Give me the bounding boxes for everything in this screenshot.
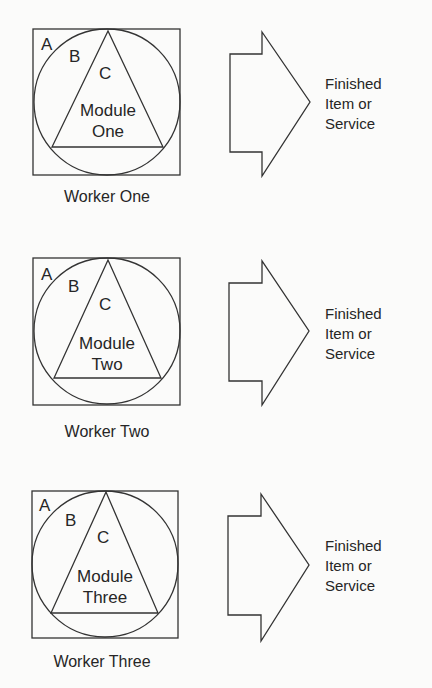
circle-region-b [34, 258, 180, 404]
region-label-c: C [99, 296, 111, 313]
output-label: Finished Item or Service [325, 74, 382, 134]
output-arrow-icon [229, 261, 309, 405]
circle-region-b [32, 491, 178, 637]
output-label: Finished Item or Service [325, 304, 382, 364]
worker-row-1: A B C Module One Worker One Finished Ite… [0, 0, 432, 230]
worker-label: Worker Two [27, 423, 187, 441]
region-label-a: A [41, 266, 52, 283]
region-label-c: C [97, 529, 109, 546]
output-arrow-icon [230, 32, 310, 176]
module-label: Module One [77, 100, 139, 142]
region-label-b: B [65, 512, 76, 529]
region-label-b: B [68, 278, 79, 295]
module-label: Module Three [73, 566, 137, 608]
worker-row-2: A B C Module Two Worker Two Finished Ite… [0, 229, 432, 459]
worker-label: Worker One [27, 188, 187, 206]
region-label-a: A [39, 497, 50, 514]
output-arrow-icon [228, 494, 309, 641]
worker-label: Worker Three [22, 653, 182, 671]
module-label: Module Two [76, 333, 138, 375]
worker-row-3: A B C Module Three Worker Three Finished… [0, 460, 432, 688]
region-label-b: B [69, 48, 80, 65]
region-label-c: C [99, 65, 111, 82]
region-label-a: A [41, 36, 52, 53]
output-label: Finished Item or Service [325, 536, 382, 596]
